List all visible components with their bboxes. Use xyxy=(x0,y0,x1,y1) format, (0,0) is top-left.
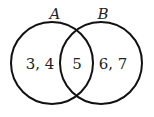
venn-diagram: A B 3, 4 5 6, 7 xyxy=(0,0,154,117)
set-b-label: B xyxy=(96,5,108,23)
b-only-elements: 6, 7 xyxy=(99,55,128,73)
set-a-label: A xyxy=(48,5,61,23)
a-only-elements: 3, 4 xyxy=(26,55,55,73)
intersection-elements: 5 xyxy=(72,55,82,73)
